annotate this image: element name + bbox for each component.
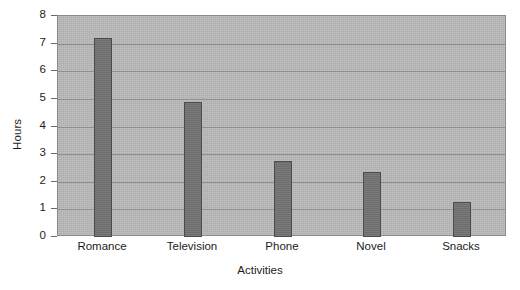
gridline [58,99,505,100]
gridline [58,71,505,72]
y-axis-tick [51,236,57,237]
x-axis-tick-label: Snacks [406,240,516,253]
y-axis-tick-label: 4 [16,120,46,132]
x-axis-title: Activities [0,264,520,276]
y-axis-tick-label: 2 [16,175,46,187]
bar [363,172,381,237]
bar [184,102,202,237]
y-axis-tick-label: 5 [16,92,46,104]
bar [94,38,112,237]
y-axis-title: Hours [6,94,28,174]
y-axis-tick-label: 3 [16,147,46,159]
plot-area [57,15,506,236]
y-axis-tick-label: 1 [16,202,46,214]
y-axis-tick-label: 8 [16,9,46,21]
gridline [58,154,505,155]
bar [453,202,471,237]
y-axis-tick-label: 7 [16,37,46,49]
y-axis-tick-label: 0 [16,230,46,242]
bar [274,161,292,237]
bar-chart-figure: Hours 876543210 RomanceTelevisionPhoneNo… [0,0,520,290]
gridline [58,44,505,45]
gridline [58,127,505,128]
y-axis-tick-label: 6 [16,64,46,76]
